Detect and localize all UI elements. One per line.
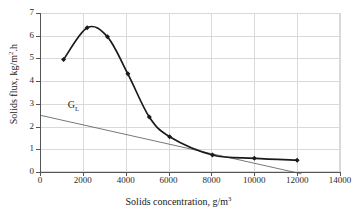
y-tick-label: 2	[20, 121, 34, 132]
plot-frame	[40, 13, 340, 172]
gridline-vertical	[254, 13, 255, 172]
y-tick-label: 3	[20, 98, 34, 109]
gridline-horizontal	[40, 149, 340, 150]
x-tick-label: 4000	[106, 175, 146, 186]
gridline-vertical	[169, 13, 170, 172]
y-tick-label: 5	[20, 52, 34, 63]
y-tick	[36, 127, 40, 128]
x-tick-label: 10000	[234, 175, 274, 186]
gridline-horizontal	[40, 58, 340, 59]
gridline-horizontal	[40, 104, 340, 105]
y-axis-title-tail: .h	[8, 44, 19, 52]
y-axis-title-text: Solids flux, kg/m	[8, 55, 19, 124]
y-axis-line	[40, 13, 41, 173]
gl-annotation-text: G	[68, 99, 75, 110]
y-tick	[36, 58, 40, 59]
gridline-vertical	[297, 13, 298, 172]
x-tick-label: 12000	[277, 175, 317, 186]
y-tick-label: 0	[20, 166, 34, 177]
y-tick	[36, 81, 40, 82]
gridline-vertical	[126, 13, 127, 172]
x-axis-title-sup: 3	[228, 195, 231, 202]
gridline-vertical	[211, 13, 212, 172]
gl-annotation-subscript: L	[75, 105, 79, 112]
plot-area	[40, 13, 340, 172]
x-axis-title: Solids concentration, g/m3	[0, 195, 357, 207]
x-tick-label: 14000	[320, 175, 357, 186]
gridline-vertical	[83, 13, 84, 172]
y-tick-label: 6	[20, 30, 34, 41]
y-tick	[36, 172, 40, 173]
gridline-horizontal	[40, 36, 340, 37]
gridline-horizontal	[40, 13, 340, 14]
x-axis-title-text: Solids concentration, g/m	[126, 196, 229, 207]
x-tick-label: 6000	[149, 175, 189, 186]
y-tick	[36, 104, 40, 105]
gridline-vertical	[340, 13, 341, 172]
x-axis-line	[40, 172, 341, 173]
y-tick-label: 7	[20, 7, 34, 18]
y-tick-label: 1	[20, 143, 34, 154]
chart-root: 02000400060008000100001200014000 0123456…	[0, 0, 357, 217]
y-tick	[36, 149, 40, 150]
gridline-horizontal	[40, 81, 340, 82]
x-tick-label: 2000	[63, 175, 103, 186]
gridline-horizontal	[40, 127, 340, 128]
y-axis-title: Solids flux, kg/m2.h	[7, 9, 19, 159]
gl-annotation-label: GL	[68, 99, 79, 112]
y-axis-title-sup: 2	[7, 52, 14, 55]
y-tick	[36, 13, 40, 14]
y-tick	[36, 36, 40, 37]
x-tick-label: 8000	[191, 175, 231, 186]
y-tick-label: 4	[20, 75, 34, 86]
